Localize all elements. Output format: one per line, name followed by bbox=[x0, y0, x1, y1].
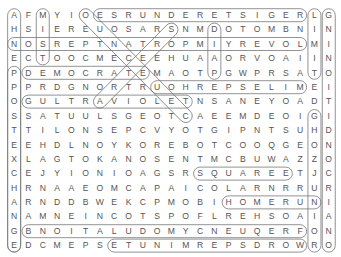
grid-cell[interactable]: V bbox=[264, 37, 278, 51]
grid-cell[interactable]: L bbox=[150, 94, 164, 108]
grid-cell[interactable]: E bbox=[250, 94, 264, 108]
grid-cell[interactable]: N bbox=[179, 22, 193, 36]
grid-cell[interactable]: A bbox=[7, 195, 21, 209]
grid-cell[interactable]: T bbox=[121, 66, 135, 80]
grid-cell[interactable]: U bbox=[121, 224, 135, 238]
grid-cell[interactable]: L bbox=[64, 138, 78, 152]
grid-cell[interactable]: T bbox=[7, 123, 21, 137]
grid-cell[interactable]: D bbox=[250, 238, 264, 252]
grid-cell[interactable]: R bbox=[236, 51, 250, 65]
grid-cell[interactable]: G bbox=[307, 109, 321, 123]
grid-cell[interactable]: M bbox=[179, 238, 193, 252]
grid-cell[interactable]: E bbox=[179, 8, 193, 22]
letter-grid[interactable]: AFMYIOESRUNDERETSIGERLGHSIEREUOSARSNMDOT… bbox=[7, 8, 336, 253]
grid-cell[interactable]: U bbox=[307, 181, 321, 195]
grid-cell[interactable]: E bbox=[107, 123, 121, 137]
grid-cell[interactable]: P bbox=[78, 37, 92, 51]
grid-cell[interactable]: T bbox=[264, 123, 278, 137]
grid-cell[interactable]: S bbox=[236, 8, 250, 22]
grid-cell[interactable]: B bbox=[179, 138, 193, 152]
grid-cell[interactable]: S bbox=[279, 66, 293, 80]
grid-cell[interactable]: D bbox=[21, 238, 35, 252]
grid-cell[interactable]: Y bbox=[50, 166, 64, 180]
grid-cell[interactable]: P bbox=[236, 123, 250, 137]
grid-cell[interactable]: R bbox=[264, 66, 278, 80]
grid-cell[interactable]: S bbox=[7, 109, 21, 123]
grid-cell[interactable]: M bbox=[36, 8, 50, 22]
grid-cell[interactable]: O bbox=[136, 94, 150, 108]
grid-cell[interactable]: A bbox=[64, 181, 78, 195]
grid-cell[interactable]: N bbox=[7, 37, 21, 51]
grid-cell[interactable]: R bbox=[193, 238, 207, 252]
grid-cell[interactable]: C bbox=[36, 238, 50, 252]
grid-cell[interactable]: O bbox=[93, 138, 107, 152]
grid-cell[interactable]: L bbox=[293, 37, 307, 51]
grid-cell[interactable]: U bbox=[136, 238, 150, 252]
grid-cell[interactable]: O bbox=[236, 138, 250, 152]
grid-cell[interactable]: B bbox=[279, 22, 293, 36]
grid-cell[interactable]: T bbox=[78, 224, 92, 238]
grid-cell[interactable]: P bbox=[221, 80, 235, 94]
grid-cell[interactable]: R bbox=[293, 8, 307, 22]
grid-cell[interactable]: S bbox=[164, 166, 178, 180]
grid-cell[interactable]: N bbox=[107, 37, 121, 51]
grid-cell[interactable]: I bbox=[307, 22, 321, 36]
grid-cell[interactable]: P bbox=[7, 80, 21, 94]
grid-cell[interactable]: R bbox=[250, 166, 264, 180]
grid-cell[interactable]: C bbox=[179, 109, 193, 123]
grid-cell[interactable]: I bbox=[207, 37, 221, 51]
grid-cell[interactable]: D bbox=[322, 123, 336, 137]
grid-cell[interactable]: O bbox=[136, 152, 150, 166]
grid-cell[interactable]: G bbox=[150, 166, 164, 180]
grid-cell[interactable]: E bbox=[221, 224, 235, 238]
grid-cell[interactable]: D bbox=[250, 109, 264, 123]
grid-cell[interactable]: E bbox=[164, 94, 178, 108]
grid-cell[interactable]: L bbox=[264, 80, 278, 94]
grid-cell[interactable]: A bbox=[293, 66, 307, 80]
grid-cell[interactable]: P bbox=[21, 80, 35, 94]
grid-cell[interactable]: S bbox=[107, 8, 121, 22]
grid-cell[interactable]: R bbox=[107, 80, 121, 94]
grid-cell[interactable]: E bbox=[50, 22, 64, 36]
grid-cell[interactable]: T bbox=[307, 66, 321, 80]
grid-cell[interactable]: T bbox=[293, 166, 307, 180]
grid-cell[interactable]: O bbox=[179, 66, 193, 80]
grid-cell[interactable]: L bbox=[221, 181, 235, 195]
grid-cell[interactable]: O bbox=[279, 209, 293, 223]
grid-cell[interactable]: G bbox=[207, 123, 221, 137]
grid-cell[interactable]: G bbox=[264, 8, 278, 22]
grid-cell[interactable]: P bbox=[78, 238, 92, 252]
grid-cell[interactable]: O bbox=[236, 195, 250, 209]
grid-cell[interactable]: A bbox=[107, 152, 121, 166]
grid-cell[interactable]: P bbox=[207, 66, 221, 80]
grid-cell[interactable]: R bbox=[36, 80, 50, 94]
grid-cell[interactable]: F bbox=[21, 8, 35, 22]
grid-cell[interactable]: P bbox=[179, 37, 193, 51]
grid-cell[interactable]: D bbox=[50, 195, 64, 209]
grid-cell[interactable]: S bbox=[93, 123, 107, 137]
grid-cell[interactable]: P bbox=[7, 66, 21, 80]
grid-cell[interactable]: I bbox=[78, 209, 92, 223]
grid-cell[interactable]: T bbox=[179, 94, 193, 108]
grid-cell[interactable]: O bbox=[164, 37, 178, 51]
grid-cell[interactable]: Q bbox=[207, 166, 221, 180]
grid-cell[interactable]: Y bbox=[264, 94, 278, 108]
grid-cell[interactable]: W bbox=[93, 195, 107, 209]
grid-cell[interactable]: M bbox=[150, 66, 164, 80]
grid-cell[interactable]: O bbox=[64, 51, 78, 65]
grid-cell[interactable]: C bbox=[78, 51, 92, 65]
grid-cell[interactable]: O bbox=[279, 238, 293, 252]
grid-cell[interactable]: R bbox=[150, 37, 164, 51]
grid-cell[interactable]: T bbox=[121, 80, 135, 94]
grid-cell[interactable]: H bbox=[179, 80, 193, 94]
grid-cell[interactable]: Z bbox=[293, 152, 307, 166]
grid-cell[interactable]: O bbox=[50, 224, 64, 238]
grid-cell[interactable]: D bbox=[207, 22, 221, 36]
grid-cell[interactable]: M bbox=[36, 209, 50, 223]
grid-cell[interactable]: M bbox=[193, 22, 207, 36]
grid-cell[interactable]: U bbox=[293, 195, 307, 209]
grid-cell[interactable]: R bbox=[279, 181, 293, 195]
grid-cell[interactable]: E bbox=[307, 80, 321, 94]
grid-cell[interactable]: C bbox=[7, 166, 21, 180]
grid-cell[interactable]: R bbox=[121, 8, 135, 22]
